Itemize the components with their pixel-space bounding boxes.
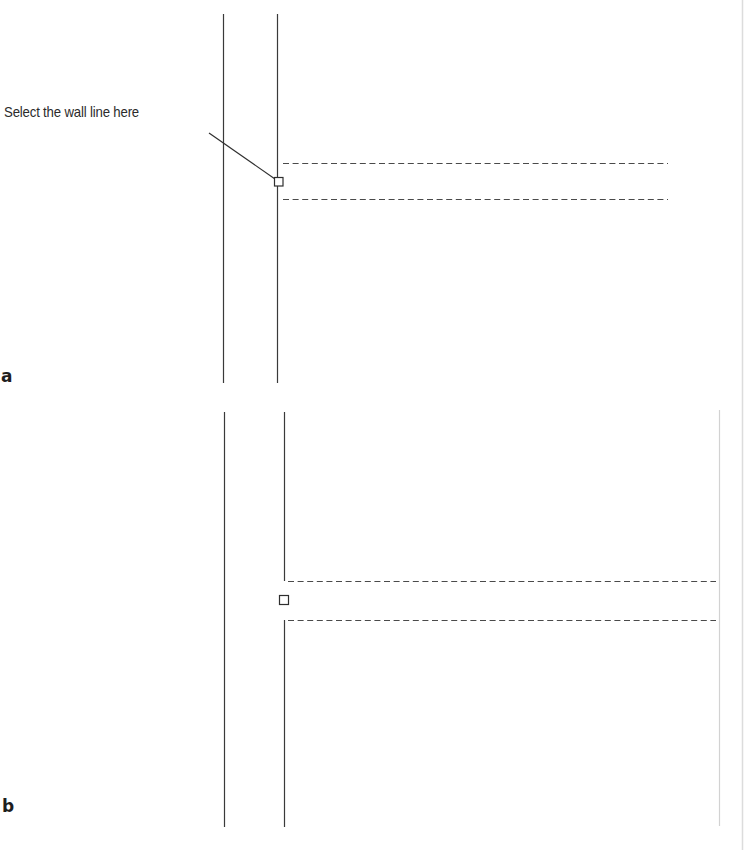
diagram-canvas [0,0,753,850]
panel-label-b: b [2,798,14,815]
callout-label: Select the wall line here [4,103,139,120]
pick-box-icon [280,596,289,605]
pick-box-icon [275,178,284,187]
panel-label-a: a [1,368,12,385]
callout-leader-line [209,133,275,179]
panel-b-drawing [225,410,720,827]
panel-a-drawing [209,14,668,383]
